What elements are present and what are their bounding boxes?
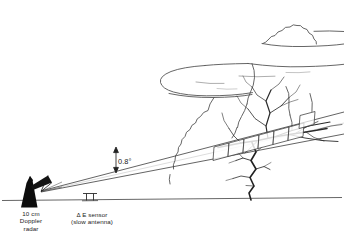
sensor-label: Δ E sensor (slow antenna) (52, 211, 132, 226)
diagram-canvas: 10 cm Doppler radar Δ E sensor (slow ant… (0, 0, 344, 241)
ground-line (2, 198, 342, 201)
schematic-illustration (0, 0, 344, 241)
radar-tower-icon (21, 176, 52, 208)
anvil-cloud-icon (160, 25, 344, 184)
range-gate-boxes-icon (213, 112, 315, 161)
radar-beam-icon (41, 112, 344, 192)
beam-angle-label: 0.8° (118, 158, 144, 167)
